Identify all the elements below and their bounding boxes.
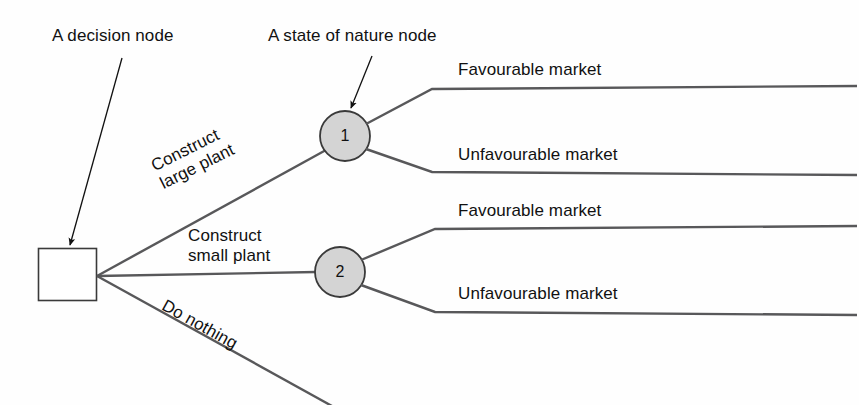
- outcome-label-node2-favourable: Favourable market: [458, 201, 601, 221]
- outcome-label-node1-favourable: Favourable market: [458, 60, 601, 80]
- state-of-nature-annotation-arrow: [351, 56, 372, 108]
- branch-line-node2-favourable: [361, 226, 857, 260]
- branch-label-construct-small-plant: Construct small plant: [188, 226, 270, 266]
- state-node-1-label: 1: [320, 127, 370, 145]
- state-of-nature-annotation-label: A state of nature node: [268, 26, 437, 46]
- decision-node-annotation-label: A decision node: [52, 26, 174, 46]
- decision-tree-diagram: A decision node A state of nature node 1…: [0, 0, 859, 405]
- decision-node-annotation-arrow: [70, 58, 122, 245]
- outcome-label-node2-unfavourable: Unfavourable market: [458, 284, 618, 304]
- branch-line-construct-small-plant: [97, 272, 316, 276]
- branch-line-node1-favourable: [366, 86, 857, 124]
- outcome-label-node1-unfavourable: Unfavourable market: [458, 145, 618, 165]
- tree-graphics: [0, 0, 859, 405]
- state-node-2-label: 2: [315, 263, 365, 281]
- decision-node-square: [39, 249, 97, 301]
